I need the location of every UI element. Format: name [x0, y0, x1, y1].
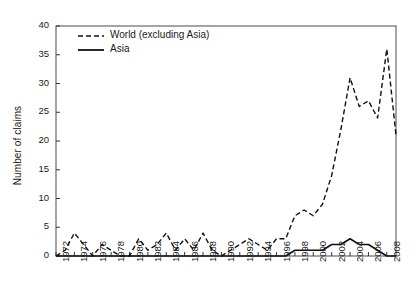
x-tick-label: 1972: [60, 241, 71, 262]
x-tick-label: 2008: [391, 241, 402, 262]
x-tick-label: 2006: [372, 241, 383, 262]
y-tick-label: 0: [23, 249, 49, 260]
plot-frame: [56, 26, 396, 256]
x-tick-label: 1976: [97, 241, 108, 262]
x-tick-label: 1988: [207, 241, 218, 262]
y-tick-label: 15: [23, 163, 49, 174]
x-tick-label: 2002: [336, 241, 347, 262]
x-tick-label: 1978: [115, 241, 126, 262]
x-tick-label: 1992: [244, 241, 255, 262]
y-tick-label: 35: [23, 48, 49, 59]
x-tick-label: 2004: [354, 241, 365, 262]
chart-figure: Number of claims 05101520253035401972197…: [0, 0, 420, 307]
y-axis-title: Number of claims: [12, 86, 23, 206]
x-tick-label: 1998: [299, 241, 310, 262]
x-tick-label: 1974: [78, 241, 89, 262]
series-line-0: [56, 49, 396, 256]
x-tick-label: 1980: [134, 241, 145, 262]
x-tick-label: 1994: [262, 241, 273, 262]
y-tick-label: 5: [23, 220, 49, 231]
legend-label-0: World (excluding Asia): [110, 29, 209, 40]
x-tick-label: 1982: [152, 241, 163, 262]
y-tick-label: 10: [23, 192, 49, 203]
y-tick-label: 20: [23, 134, 49, 145]
y-tick-label: 40: [23, 19, 49, 30]
legend-label-1: Asia: [110, 43, 129, 54]
x-tick-label: 1986: [189, 241, 200, 262]
y-tick-label: 25: [23, 105, 49, 116]
x-tick-label: 2000: [317, 241, 328, 262]
y-tick-label: 30: [23, 77, 49, 88]
x-tick-label: 1984: [170, 241, 181, 262]
x-tick-label: 1996: [281, 241, 292, 262]
x-tick-label: 1990: [225, 241, 236, 262]
